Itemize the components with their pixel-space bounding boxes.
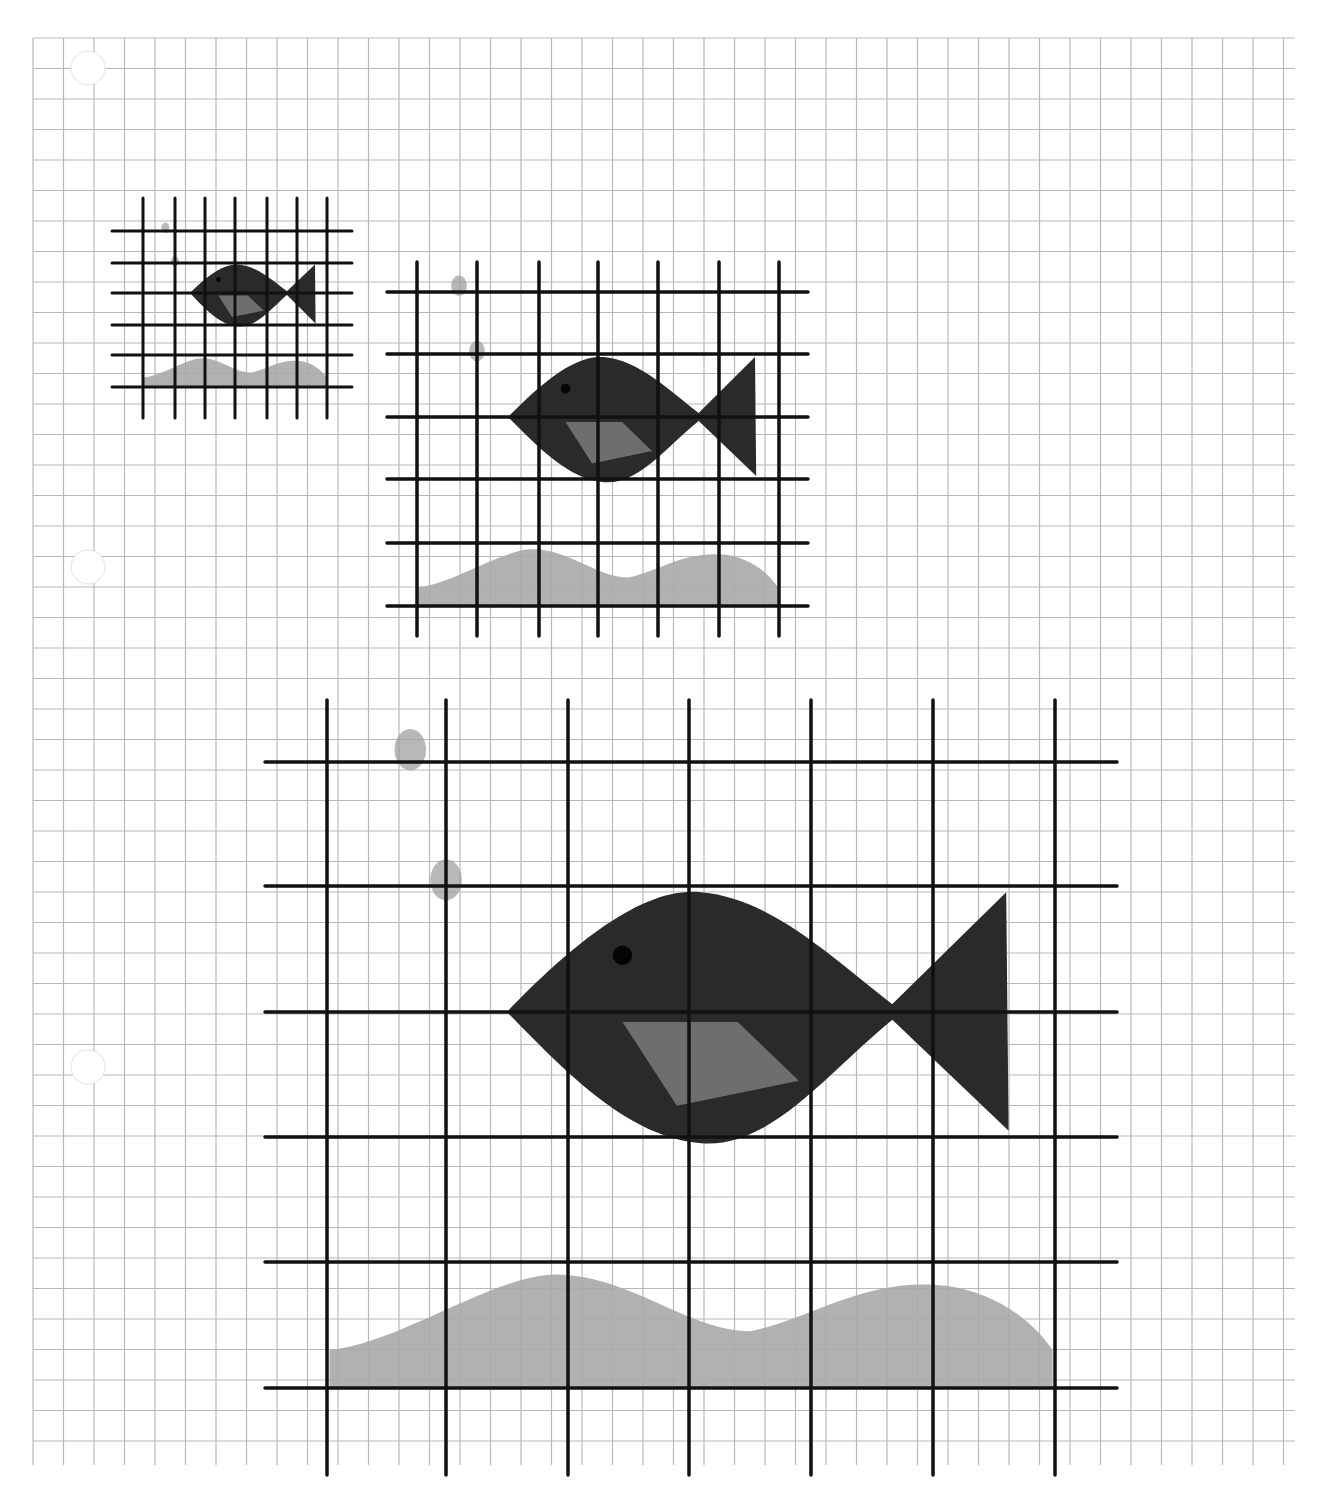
- binder-holes: [71, 51, 105, 1084]
- fish-eye: [613, 946, 632, 965]
- medium-fish-drawing: [387, 262, 808, 636]
- fish-eye: [216, 277, 221, 282]
- sand-mound: [329, 1275, 1052, 1388]
- graph-paper-page: [0, 0, 1327, 1496]
- small-fish-drawing: [112, 198, 352, 418]
- bubble: [395, 729, 427, 770]
- binder-hole: [71, 51, 105, 85]
- large-fish-drawing: [265, 700, 1117, 1475]
- paper-grid: [33, 38, 1295, 1465]
- binder-hole: [71, 1050, 105, 1084]
- fish-eye: [561, 384, 571, 394]
- fish-drawings: [112, 198, 1117, 1475]
- binder-hole: [71, 550, 105, 584]
